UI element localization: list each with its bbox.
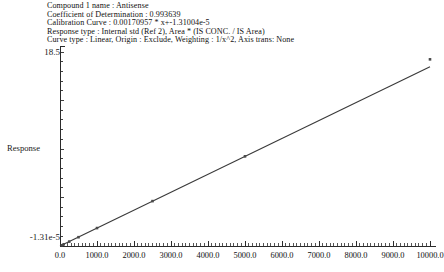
data-point-marker (96, 227, 99, 230)
data-point-marker (62, 243, 65, 246)
x-axis-tick-label: 0.0 (55, 251, 65, 261)
x-axis-tick-label: 8000.0 (344, 251, 367, 261)
x-axis-tick-label: 9000.0 (381, 251, 404, 261)
x-axis-tick-label: 1000.0 (85, 251, 108, 261)
y-axis-min-label: -1.31e-5 (5, 232, 60, 242)
data-point-marker (68, 240, 71, 243)
y-axis-max-label: 18.5 (25, 47, 60, 57)
data-point-marker (77, 236, 80, 239)
y-axis-ticks (60, 46, 65, 246)
x-axis-tick-label: 6000.0 (270, 251, 293, 261)
x-axis-tick-label: 5000.0 (233, 251, 256, 261)
data-point-marker (244, 155, 247, 158)
x-axis-ticks (60, 241, 430, 246)
x-axis-tick-label: 10000.0 (416, 251, 443, 261)
data-point-marker (429, 58, 432, 61)
x-axis-tick-labels: 0.01000.02000.03000.04000.05000.06000.07… (0, 251, 442, 265)
x-axis-tick-label: 2000.0 (122, 251, 145, 261)
x-axis-tick-label: 7000.0 (307, 251, 330, 261)
axis-spines (60, 46, 436, 246)
x-axis-tick-label: 3000.0 (159, 251, 182, 261)
y-axis-title: Response (7, 143, 40, 153)
x-axis-tick-label: 4000.0 (196, 251, 219, 261)
data-point-marker (151, 200, 154, 203)
